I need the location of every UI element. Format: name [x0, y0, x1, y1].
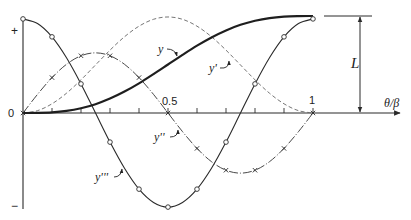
y-axis-zero-label: 0	[8, 107, 14, 119]
x-axis-label: θ/β	[384, 96, 399, 110]
circle-marker	[50, 35, 55, 40]
x-tick-label-half: 0.5	[162, 95, 177, 107]
circle-marker	[137, 187, 142, 192]
curve-label-y-double-prime: y''	[153, 130, 165, 144]
circle-marker	[166, 205, 171, 210]
rise-label-L: L	[350, 55, 359, 71]
rise-dimension: L	[324, 16, 372, 112]
y-axis-plus-label: +	[11, 24, 18, 38]
circle-marker	[108, 140, 113, 145]
curve-label-y-triple-prime: y'''	[94, 170, 108, 184]
circle-marker	[311, 17, 316, 22]
curve-label-y-prime: y'	[208, 61, 217, 75]
curve-label-y: y	[157, 42, 164, 56]
label-y-triple-prime: y'''	[94, 169, 122, 184]
leader-arrow-y-prime	[220, 61, 229, 68]
label-y-prime: y'	[208, 61, 229, 75]
leader-arrow-y-triple-prime	[114, 169, 122, 177]
circle-marker	[282, 35, 287, 40]
circle-marker	[253, 82, 258, 87]
label-y-double-prime: y''	[153, 130, 178, 144]
y-axis-minus-label: −	[11, 199, 18, 213]
circle-marker	[21, 17, 26, 22]
x-tick-label-one: 1	[309, 94, 315, 106]
leader-arrow-y-double-prime	[170, 130, 178, 137]
label-y: y	[157, 42, 177, 56]
circle-marker	[195, 187, 200, 192]
axes	[23, 19, 400, 209]
circle-marker	[79, 82, 84, 87]
circle-marker	[224, 140, 229, 145]
cam-motion-chart: L + 0 − 0.5 1 θ/β y y' y'' y'''	[0, 0, 411, 220]
x-axis-ticks	[52, 108, 313, 113]
leader-arrow-y	[167, 49, 177, 56]
